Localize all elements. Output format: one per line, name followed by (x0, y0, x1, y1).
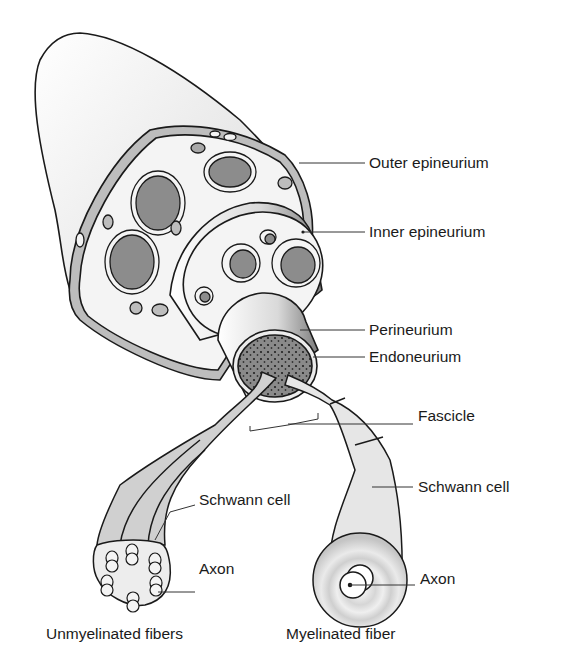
label-axon-left: Axon (199, 561, 234, 577)
label-schwann-cell-left: Schwann cell (199, 492, 290, 508)
caption-myelinated-fiber: Myelinated fiber (286, 626, 395, 642)
label-axon-right: Axon (420, 571, 455, 587)
label-inner-epineurium: Inner epineurium (369, 224, 485, 240)
myelinated-fiber (285, 375, 407, 627)
label-outer-epineurium: Outer epineurium (369, 155, 489, 171)
label-schwann-cell-right: Schwann cell (418, 479, 509, 495)
nerve-diagram (0, 0, 573, 661)
caption-unmyelinated-fibers: Unmyelinated fibers (46, 626, 183, 642)
label-endoneurium: Endoneurium (369, 349, 461, 365)
label-perineurium: Perineurium (369, 322, 453, 338)
label-fascicle: Fascicle (418, 408, 475, 424)
